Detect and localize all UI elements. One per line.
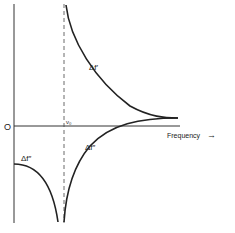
curve-label-upper-right: Δf′ — [89, 63, 99, 72]
curve-lower-right — [64, 118, 178, 222]
x-axis-arrow-icon: → — [207, 130, 216, 140]
curve-upper-right — [66, 5, 178, 118]
curve-lower-left — [14, 164, 58, 222]
x-axis-label: Frequency — [167, 132, 201, 140]
dispersion-diagram: O ν₀ Δf′ Δf″ Δf″ Frequency → — [0, 0, 235, 233]
origin-label: O — [4, 122, 11, 132]
resonance-label: ν₀ — [66, 119, 72, 125]
curve-label-lower-left: Δf″ — [21, 154, 32, 163]
curve-label-lower-right: Δf″ — [85, 143, 96, 152]
